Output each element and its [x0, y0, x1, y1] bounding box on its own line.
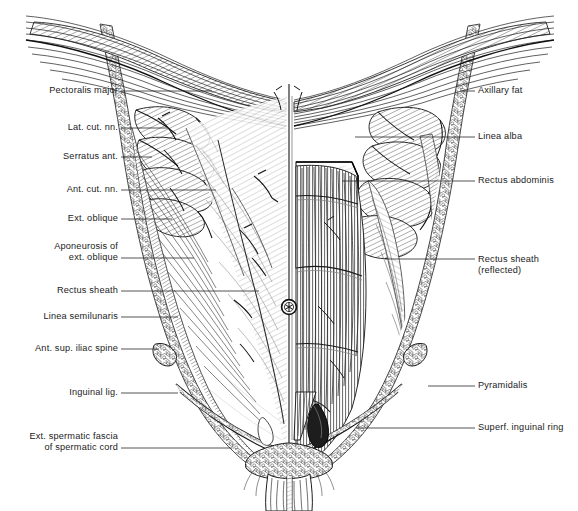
label-layer: Pectoralis majorLat. cut. nn.Serratus an… — [0, 0, 578, 511]
label-superf-inguinal-ring: Superf. inguinal ring — [478, 422, 564, 433]
label-serratus-ant: Serratus ant. — [63, 151, 118, 162]
label-line: Rectus sheath — [478, 254, 539, 265]
label-rectus-sheath-reflected: Rectus sheath(reflected) — [478, 254, 539, 277]
label-inguinal-lig: Inguinal lig. — [69, 387, 118, 398]
label-line: Inguinal lig. — [69, 387, 118, 398]
label-line: Lat. cut. nn. — [68, 122, 118, 133]
label-line: (reflected) — [478, 265, 539, 276]
label-axillary-fat: Axillary fat — [478, 85, 523, 96]
label-line: Serratus ant. — [63, 151, 118, 162]
label-pyramidalis: Pyramidalis — [478, 380, 527, 391]
label-linea-semilunaris: Linea semilunaris — [43, 311, 118, 322]
label-line: of spermatic cord — [29, 442, 118, 453]
label-line: Pyramidalis — [478, 380, 527, 391]
label-ext-oblique: Ext. oblique — [68, 213, 118, 224]
label-ant-cut-nn: Ant. cut. nn. — [67, 184, 118, 195]
label-line: Axillary fat — [478, 85, 523, 96]
label-line: Linea alba — [478, 131, 522, 142]
label-line: Ant. sup. iliac spine — [35, 343, 118, 354]
label-line: Rectus sheath — [57, 285, 118, 296]
label-linea-alba: Linea alba — [478, 131, 522, 142]
label-line: ext. oblique — [54, 252, 118, 263]
label-line: Ant. cut. nn. — [67, 184, 118, 195]
label-ant-sup-iliac-spine: Ant. sup. iliac spine — [35, 343, 118, 354]
label-ext-spermatic-fascia: Ext. spermatic fasciaof spermatic cord — [29, 431, 118, 454]
label-line: Ext. oblique — [68, 213, 118, 224]
label-line: Rectus abdominis — [478, 175, 554, 186]
label-line: Superf. inguinal ring — [478, 422, 564, 433]
label-aponeurosis-ext-oblique: Aponeurosis ofext. oblique — [54, 241, 118, 264]
label-lat-cut-nn: Lat. cut. nn. — [68, 122, 118, 133]
label-rectus-sheath-left: Rectus sheath — [57, 285, 118, 296]
label-line: Ext. spermatic fascia — [29, 431, 118, 442]
anatomy-plate: Pectoralis majorLat. cut. nn.Serratus an… — [0, 0, 578, 511]
label-line: Pectoralis major — [49, 85, 118, 96]
label-line: Linea semilunaris — [43, 311, 118, 322]
label-line: Aponeurosis of — [54, 241, 118, 252]
label-rectus-abdominis: Rectus abdominis — [478, 175, 554, 186]
label-pectoralis-major: Pectoralis major — [49, 85, 118, 96]
